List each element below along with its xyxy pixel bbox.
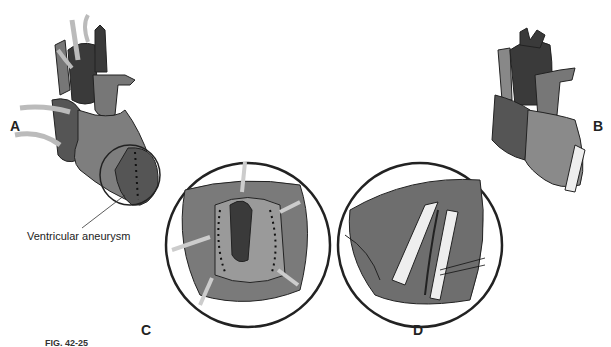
heart-a-illustration <box>15 15 160 228</box>
panel-d-illustration <box>338 163 502 327</box>
panel-c-illustration <box>166 162 330 327</box>
heart-b-illustration <box>492 28 585 192</box>
panel-label-a: A <box>10 118 20 134</box>
aneurysm-annotation: Ventricular aneurysm <box>27 230 130 242</box>
panel-label-c: C <box>141 322 151 338</box>
panel-label-b: B <box>593 118 603 134</box>
figure-caption: FIG. 42-25 <box>45 338 88 347</box>
figure-artwork <box>0 0 611 347</box>
panel-label-d: D <box>413 322 423 338</box>
